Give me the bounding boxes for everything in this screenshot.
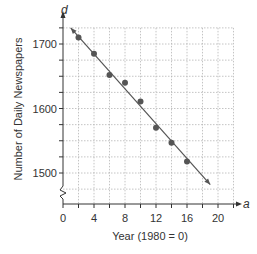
axis-labels: Year (1980 = 0) Number of Daily Newspape…: [12, 3, 250, 242]
data-point: [138, 98, 144, 104]
data-point: [76, 35, 82, 41]
x-tick-label: 16: [181, 212, 193, 224]
x-axis-label: Year (1980 = 0): [112, 230, 188, 242]
data-points: [76, 35, 191, 165]
data-point: [169, 140, 175, 146]
data-point: [184, 158, 190, 164]
data-point: [107, 72, 113, 78]
data-point: [153, 125, 159, 131]
data-point: [91, 51, 97, 57]
scatter-chart: Year (1980 = 0) Number of Daily Newspape…: [0, 0, 257, 254]
y-axis-variable: d: [61, 3, 68, 17]
x-tick-label: 20: [212, 212, 224, 224]
y-tick-label: 1700: [33, 38, 57, 50]
axis-break-icon: [60, 186, 66, 204]
x-tick-label: 0: [60, 212, 66, 224]
x-axis-arrow-icon: [236, 202, 242, 207]
y-axis-label: Number of Daily Newspapers: [12, 37, 24, 181]
x-tick-label: 4: [91, 212, 97, 224]
y-tick-label: 1500: [33, 167, 57, 179]
x-tick-label: 8: [122, 212, 128, 224]
x-tick-label: 12: [150, 212, 162, 224]
grid-lines: [63, 28, 234, 204]
data-point: [122, 80, 128, 86]
x-axis-variable: a: [243, 197, 250, 211]
y-tick-label: 1600: [33, 103, 57, 115]
axes: [59, 11, 242, 208]
